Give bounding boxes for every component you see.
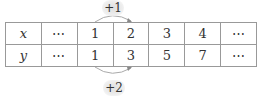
cell: 5	[149, 45, 185, 67]
cell: 3	[113, 45, 149, 67]
cell: 1	[77, 23, 113, 45]
cell: ⋯	[221, 45, 257, 67]
increment-x-label: +1	[102, 0, 124, 16]
cell: 3	[149, 23, 185, 45]
cell: 4	[185, 23, 221, 45]
increment-y-label: +2	[103, 80, 125, 96]
row-label-x: x	[6, 23, 42, 45]
table-row-y: y ⋯ 1 3 5 7 ⋯	[6, 45, 257, 67]
table-row-x: x ⋯ 1 2 3 4 ⋯	[6, 23, 257, 45]
cell: ⋯	[41, 45, 77, 67]
cell: 2	[113, 23, 149, 45]
cell: ⋯	[221, 23, 257, 45]
row-label-y: y	[6, 45, 42, 67]
cell: 7	[185, 45, 221, 67]
value-table: x ⋯ 1 2 3 4 ⋯ y ⋯ 1 3 5 7 ⋯	[5, 22, 257, 67]
cell: 1	[77, 45, 113, 67]
cell: ⋯	[41, 23, 77, 45]
